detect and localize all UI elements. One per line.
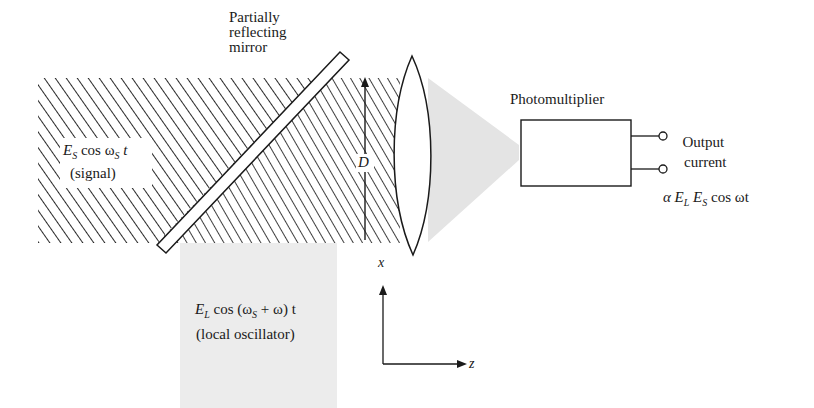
- photomultiplier-box: [521, 120, 631, 186]
- lo-field-symbol: E: [195, 301, 204, 317]
- output-terminals: [631, 132, 667, 173]
- local-oscillator-caption: (local oscillator): [196, 327, 295, 342]
- output-label-line1: Output: [680, 132, 726, 152]
- output-expression: α EL ES cos ωt: [663, 190, 749, 208]
- terminal-bottom: [659, 165, 667, 173]
- mirror-label: Partially reflecting mirror: [229, 10, 286, 55]
- signal-expr-end: t: [123, 142, 127, 158]
- output-label: Output current: [680, 132, 726, 172]
- signal-field-sub: S: [72, 150, 77, 161]
- detector-label: Photomultiplier: [510, 92, 604, 107]
- mirror-label-line1: Partially: [229, 10, 286, 25]
- coordinate-axes: [383, 290, 462, 364]
- local-oscillator-expression: EL cos (ωS + ω) t: [195, 302, 296, 320]
- mirror-label-line2: reflecting: [229, 25, 286, 40]
- signal-expr-sub: S: [115, 150, 120, 161]
- mirror-label-line3: mirror: [229, 40, 286, 55]
- lo-expr-end: + ω) t: [261, 301, 296, 317]
- beam-diameter-label: D: [358, 155, 369, 170]
- lo-expr-mid: cos (ω: [213, 301, 252, 317]
- signal-caption: (signal): [70, 166, 116, 181]
- focused-light-cone: [428, 78, 519, 242]
- signal-field-symbol: E: [63, 142, 72, 158]
- axis-label-x: x: [378, 256, 384, 270]
- signal-expr-mid: cos ω: [81, 142, 115, 158]
- lo-expr-sub: S: [252, 309, 257, 320]
- lo-field-sub: L: [204, 309, 210, 320]
- axis-label-z: z: [469, 357, 474, 371]
- output-label-line2: current: [680, 152, 726, 172]
- terminal-top: [659, 132, 667, 140]
- signal-expression: ES cos ωS t: [63, 143, 127, 161]
